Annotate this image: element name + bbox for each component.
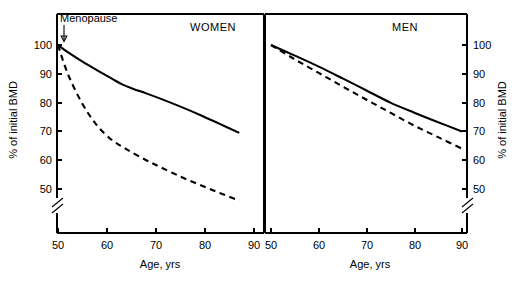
men-y-axis-break-icon <box>462 198 473 213</box>
women-ytick-label-50: 50 <box>40 183 52 195</box>
women-ytick-label-90: 90 <box>40 68 52 80</box>
women-ytick-label-100: 100 <box>34 39 52 51</box>
women-y-axis-break-icon <box>52 198 63 213</box>
women-x-axis-title: Age, yrs <box>140 258 181 270</box>
down-arrow-icon <box>61 25 67 42</box>
women-ytick-label-70: 70 <box>40 125 52 137</box>
women-xtick-label-50: 50 <box>52 239 64 251</box>
men-y-ticks <box>462 45 467 189</box>
women-xtick-label-60: 60 <box>101 239 113 251</box>
men-ytick-label-60: 60 <box>473 154 485 166</box>
women-panel-title: WOMEN <box>190 21 236 33</box>
bmd-age-figure: 100 90 80 70 60 50 50 60 70 80 90 WOMEN … <box>0 0 522 282</box>
men-ytick-label-50: 50 <box>473 183 485 195</box>
women-series-dashed <box>58 45 239 201</box>
men-series-solid <box>271 45 462 131</box>
men-xtick-label-80: 80 <box>409 239 421 251</box>
men-ytick-label-70: 70 <box>473 125 485 137</box>
men-panel-title: MEN <box>392 21 418 33</box>
women-y-ticks <box>57 45 62 189</box>
women-y-axis-title: % of initial BMD <box>7 81 19 159</box>
men-ytick-label-100: 100 <box>473 39 491 51</box>
women-xtick-label-90: 90 <box>248 239 260 251</box>
men-ytick-label-90: 90 <box>473 68 485 80</box>
menopause-annotation-label: Menopause <box>60 12 118 24</box>
chart-canvas: 100 90 80 70 60 50 50 60 70 80 90 WOMEN … <box>0 0 522 282</box>
women-xtick-label-70: 70 <box>150 239 162 251</box>
men-y-axis-title: % of initial BMD <box>496 81 508 159</box>
men-series-dashed <box>271 45 462 149</box>
women-x-ticks <box>58 228 254 233</box>
men-xtick-label-90: 90 <box>456 239 468 251</box>
men-ytick-label-80: 80 <box>473 97 485 109</box>
women-ytick-label-80: 80 <box>40 97 52 109</box>
men-panel-frame <box>265 14 467 233</box>
women-ytick-label-60: 60 <box>40 154 52 166</box>
women-panel: 100 90 80 70 60 50 50 60 70 80 90 WOMEN … <box>7 12 264 270</box>
men-x-axis-title: Age, yrs <box>350 258 391 270</box>
women-panel-frame <box>57 14 264 233</box>
men-xtick-label-50: 50 <box>265 239 277 251</box>
women-series-solid <box>58 45 239 133</box>
men-panel: 100 90 80 70 60 50 50 60 70 80 90 MEN % … <box>265 14 508 270</box>
women-xtick-label-80: 80 <box>199 239 211 251</box>
men-x-ticks <box>271 228 462 233</box>
men-xtick-label-60: 60 <box>313 239 325 251</box>
men-xtick-label-70: 70 <box>361 239 373 251</box>
